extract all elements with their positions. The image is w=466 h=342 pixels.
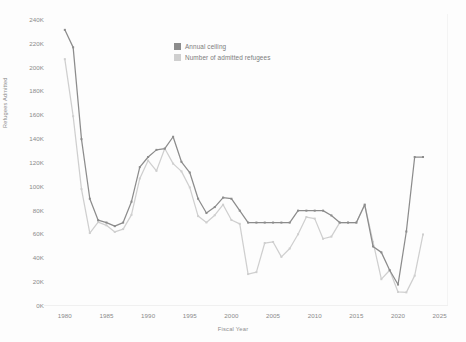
- series-marker: [305, 210, 307, 212]
- series-marker: [405, 231, 407, 233]
- series-marker: [239, 210, 241, 212]
- series-line: [65, 59, 423, 292]
- series-marker: [180, 161, 182, 163]
- series-marker: [64, 29, 66, 31]
- series-marker: [205, 221, 207, 223]
- series-marker: [97, 221, 99, 223]
- series-marker: [414, 275, 416, 277]
- refugee-admissions-chart: Refugees Admitted 0K20K40K60K80K100K120K…: [0, 0, 466, 342]
- series-marker: [422, 156, 424, 158]
- series-marker: [105, 222, 107, 224]
- series-marker: [64, 58, 66, 60]
- series-marker: [264, 222, 266, 224]
- series-marker: [414, 156, 416, 158]
- series-marker: [330, 236, 332, 238]
- series-marker: [139, 177, 141, 179]
- series-marker: [89, 198, 91, 200]
- series-marker: [214, 214, 216, 216]
- series-marker: [305, 216, 307, 218]
- legend-swatch-icon: [174, 54, 181, 61]
- series-marker: [89, 232, 91, 234]
- series-marker: [147, 156, 149, 158]
- series-marker: [297, 210, 299, 212]
- series-marker: [130, 214, 132, 216]
- series-marker: [80, 138, 82, 140]
- series-marker: [155, 149, 157, 151]
- series-marker: [322, 238, 324, 240]
- series-marker: [122, 228, 124, 230]
- legend-item-label: Number of admitted refugees: [185, 54, 270, 61]
- series-marker: [297, 233, 299, 235]
- series-marker: [222, 204, 224, 206]
- series-marker: [247, 273, 249, 275]
- series-marker: [197, 215, 199, 217]
- series-marker: [289, 247, 291, 249]
- series-marker: [380, 278, 382, 280]
- series-marker: [139, 166, 141, 168]
- series-marker: [422, 233, 424, 235]
- legend-item-label: Annual ceiling: [185, 43, 226, 50]
- series-marker: [272, 241, 274, 243]
- legend-item[interactable]: Number of admitted refugees: [174, 52, 270, 63]
- series-marker: [72, 115, 74, 117]
- series-marker: [147, 160, 149, 162]
- series-marker: [330, 214, 332, 216]
- series-marker: [380, 251, 382, 253]
- series-marker: [280, 222, 282, 224]
- series-marker: [314, 218, 316, 220]
- series-marker: [314, 210, 316, 212]
- series-marker: [364, 204, 366, 206]
- series-marker: [189, 186, 191, 188]
- series-marker: [289, 222, 291, 224]
- series-marker: [405, 291, 407, 293]
- series-marker: [230, 219, 232, 221]
- chart-legend: Annual ceilingNumber of admitted refugee…: [174, 41, 270, 63]
- series-marker: [389, 269, 391, 271]
- series-marker: [105, 224, 107, 226]
- series-marker: [172, 136, 174, 138]
- series-marker: [272, 222, 274, 224]
- series-marker: [230, 198, 232, 200]
- series-marker: [214, 206, 216, 208]
- series-marker: [114, 225, 116, 227]
- series-marker: [264, 242, 266, 244]
- series-marker: [372, 245, 374, 247]
- series-marker: [397, 284, 399, 286]
- legend-swatch-icon: [174, 43, 181, 50]
- series-marker: [339, 222, 341, 224]
- legend-item[interactable]: Annual ceiling: [174, 41, 270, 52]
- series-marker: [322, 210, 324, 212]
- series-marker: [397, 291, 399, 293]
- series-marker: [80, 188, 82, 190]
- series-marker: [197, 198, 199, 200]
- series-marker: [180, 170, 182, 172]
- series-marker: [355, 222, 357, 224]
- series-marker: [239, 223, 241, 225]
- series-marker: [122, 222, 124, 224]
- series-marker: [130, 201, 132, 203]
- series-marker: [222, 197, 224, 199]
- series-marker: [255, 222, 257, 224]
- series-marker: [189, 172, 191, 174]
- series-marker: [97, 219, 99, 221]
- series-marker: [164, 148, 166, 150]
- series-marker: [280, 256, 282, 258]
- series-marker: [114, 231, 116, 233]
- series-marker: [247, 222, 249, 224]
- series-marker: [205, 212, 207, 214]
- series-marker: [72, 46, 74, 48]
- series-marker: [172, 163, 174, 165]
- series-marker: [255, 271, 257, 273]
- series-marker: [155, 170, 157, 172]
- series-marker: [347, 222, 349, 224]
